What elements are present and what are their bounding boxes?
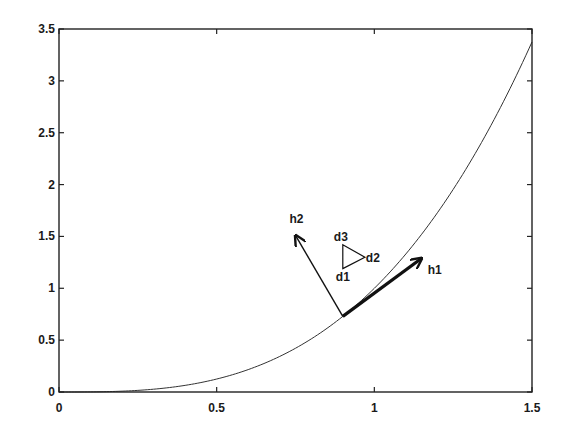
- triangle-marker: [343, 245, 365, 269]
- y-tick-label: 0: [48, 385, 55, 399]
- y-tick-label: 2.5: [38, 126, 55, 140]
- triangle-label-d3: d3: [334, 230, 348, 244]
- triangle-label-d1: d1: [336, 270, 350, 284]
- vector-label-h2: h2: [290, 212, 304, 226]
- annotations: h1h2d1d2d3: [290, 212, 442, 316]
- chart: h1h2d1d2d3 00.511.500.511.522.533.5: [0, 0, 566, 434]
- x-tick-label: 0: [56, 401, 63, 415]
- y-tick-label: 2: [48, 178, 55, 192]
- x-tick-label: 0.5: [208, 401, 225, 415]
- x-tick-label: 1.5: [524, 401, 541, 415]
- vector-label-h1: h1: [428, 263, 442, 277]
- y-tick-label: 1: [48, 281, 55, 295]
- y-tick-label: 3: [48, 74, 55, 88]
- y-tick-label: 3.5: [38, 22, 55, 36]
- x-tick-label: 1: [371, 401, 378, 415]
- axes-frame: [59, 29, 532, 392]
- y-tick-label: 1.5: [38, 229, 55, 243]
- triangle-label-d2: d2: [366, 251, 380, 265]
- vector-h1: [343, 258, 422, 316]
- y-tick-label: 0.5: [38, 333, 55, 347]
